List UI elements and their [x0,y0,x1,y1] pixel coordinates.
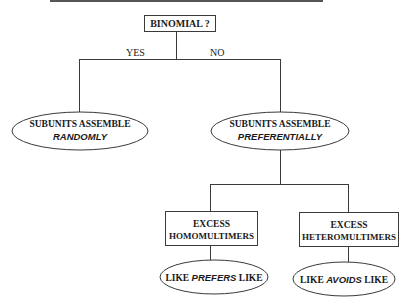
yes-label: YES [126,47,145,58]
avoids-em: AVOIDS [326,274,362,285]
avoids-pre: LIKE [300,275,326,285]
top-rule [50,0,323,2]
connector-lines [0,0,414,307]
hetero-line1: EXCESS [299,220,399,231]
binomial-decision-tree: BINOMIAL ? YES NO SUBUNITS ASSEMBLE RAND… [0,0,414,307]
random-line1: SUBUNITS ASSEMBLE [12,119,148,130]
homo-line1: EXCESS [165,219,258,230]
random-line2: RANDOMLY [12,131,148,142]
hetero-line2: HETEROMULTIMERS [299,232,399,243]
prefers-label: LIKE PREFERS LIKE [160,272,268,284]
preferential-line1: SUBUNITS ASSEMBLE [211,119,349,130]
root-label: BINOMIAL ? [144,18,216,29]
prefers-post: LIKE [236,273,262,283]
no-label: NO [210,47,224,58]
avoids-label: LIKE AVOIDS LIKE [293,274,395,286]
homo-line2: HOMOMULTIMERS [165,231,258,242]
prefers-pre: LIKE [165,273,191,283]
prefers-em: PREFERS [192,272,237,283]
avoids-post: LIKE [362,275,388,285]
preferential-line2: PREFERENTIALLY [211,131,349,142]
